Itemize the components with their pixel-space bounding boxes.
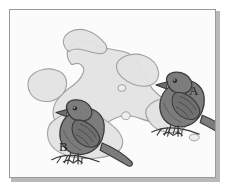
landmass-west-island [28, 69, 67, 102]
island-map-canvas [10, 10, 215, 177]
islet-lower-right [189, 134, 199, 141]
figure-root: A B [0, 0, 226, 188]
bird-a-label: A [189, 84, 198, 97]
islet-upper [118, 85, 126, 92]
bird-b-label: B [59, 140, 68, 153]
landmass-north-arm [63, 29, 106, 53]
islet-middle [122, 112, 131, 120]
figure-frame: A B [9, 9, 216, 178]
